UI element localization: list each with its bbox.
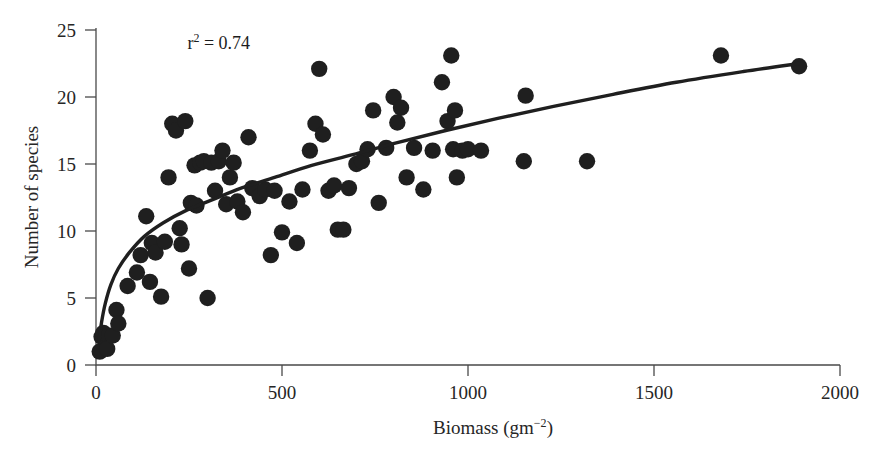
y-axis-tick-marks [85,30,96,365]
figure-container: 0500100015002000 0510152025 r2 = 0.74 Bi… [0,0,889,459]
x-tick-label: 0 [91,382,101,403]
data-point [516,153,532,169]
data-point [341,180,357,196]
annotations-group: r2 = 0.74 [187,31,250,53]
data-point [173,236,189,252]
x-tick-label: 2000 [821,382,859,403]
data-point [415,181,431,197]
y-axis-title: Number of species [21,126,42,268]
y-tick-label: 20 [57,87,76,108]
data-point [153,288,169,304]
data-point [315,126,331,142]
data-point [157,234,173,250]
data-point [199,290,215,306]
y-tick-label: 15 [57,154,76,175]
data-point [240,129,256,145]
data-point [443,47,459,63]
scatter-plot: 0500100015002000 0510152025 r2 = 0.74 Bi… [0,0,889,459]
data-point [447,102,463,118]
x-tick-label: 1500 [635,382,673,403]
data-point [294,181,310,197]
data-point [406,140,422,156]
data-point [235,204,251,220]
y-tick-label: 0 [67,355,77,376]
data-point [142,274,158,290]
data-point [473,142,489,158]
data-point [302,142,318,158]
data-point [389,114,405,130]
data-point [791,58,807,74]
y-axis-tick-labels: 0510152025 [57,20,76,376]
r-squared-annotation: r2 = 0.74 [187,31,250,53]
data-point [177,113,193,129]
data-layer [92,47,808,360]
data-point [393,100,409,116]
data-point [449,169,465,185]
x-axis-title: Biomass (gm−2) [433,416,553,439]
data-point [713,47,729,63]
data-point [579,153,595,169]
data-point [110,315,126,331]
data-point [289,235,305,251]
data-point [335,221,351,237]
data-point [434,74,450,90]
data-point [365,102,381,118]
x-tick-label: 500 [268,382,297,403]
data-point [138,208,154,224]
y-tick-label: 10 [57,221,76,242]
data-point [160,169,176,185]
y-tick-label: 5 [67,288,77,309]
x-axis-tick-marks [96,365,840,376]
data-point [281,193,297,209]
data-point [132,247,148,263]
y-tick-label: 25 [57,20,76,41]
data-point [266,183,282,199]
x-tick-label: 1000 [449,382,487,403]
data-point [222,169,238,185]
data-point [214,142,230,158]
data-point [371,195,387,211]
data-point [517,87,533,103]
x-axis-tick-labels: 0500100015002000 [91,382,859,403]
data-point [119,278,135,294]
data-point [424,142,440,158]
data-point [326,177,342,193]
data-point [398,169,414,185]
axis-lines [96,28,840,365]
data-point [263,247,279,263]
data-point [181,260,197,276]
data-point [172,220,188,236]
data-point [311,61,327,77]
data-point [225,154,241,170]
data-point [274,224,290,240]
